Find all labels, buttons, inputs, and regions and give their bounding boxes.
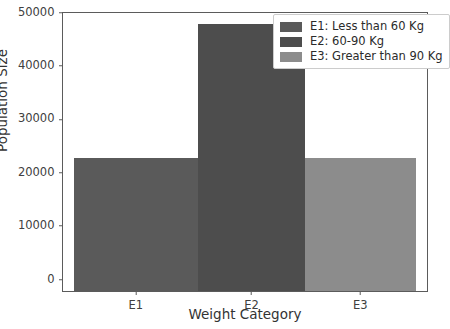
legend-swatch-icon: [280, 52, 302, 62]
y-tick-label: 10000: [18, 220, 59, 232]
y-tick-mark: [59, 279, 63, 280]
legend-swatch-icon: [280, 37, 302, 47]
y-tick-mark: [59, 119, 63, 120]
y-tick-label: 20000: [18, 167, 59, 179]
x-tick-label: E1: [129, 300, 144, 312]
x-tick-e3: E3: [353, 291, 368, 311]
x-tick-e2: E2: [244, 291, 259, 311]
bar-e1: [74, 158, 198, 291]
legend-label: E1: Less than 60 Kg: [310, 21, 424, 33]
y-tick-0: 0: [47, 274, 63, 286]
y-tick-label: 0: [47, 274, 59, 286]
legend-item-e3[interactable]: E3: Greater than 90 Kg: [280, 49, 443, 64]
y-tick-label: 30000: [18, 114, 59, 126]
y-tick-mark: [59, 226, 63, 227]
y-tick-mark: [59, 172, 63, 173]
y-tick-mark: [59, 65, 63, 66]
y-axis-title: Population Size: [0, 49, 10, 152]
x-tick-label: E3: [353, 300, 368, 312]
legend-item-e1[interactable]: E1: Less than 60 Kg: [280, 19, 443, 34]
legend-label: E3: Greater than 90 Kg: [310, 51, 443, 63]
y-tick-20000: 20000: [18, 167, 63, 179]
legend-label: E2: 60-90 Kg: [310, 36, 384, 48]
y-tick-label: 40000: [18, 60, 59, 72]
x-tick-e1: E1: [129, 291, 144, 311]
legend-swatch-icon: [280, 22, 302, 32]
y-tick-mark: [59, 12, 63, 13]
legend[interactable]: E1: Less than 60 KgE2: 60-90 KgE3: Great…: [273, 14, 450, 69]
y-tick-50000: 50000: [18, 7, 63, 19]
bar-e3: [305, 158, 416, 291]
legend-item-e2[interactable]: E2: 60-90 Kg: [280, 34, 443, 49]
y-tick-10000: 10000: [18, 220, 63, 232]
y-tick-40000: 40000: [18, 60, 63, 72]
x-tick-mark: [135, 291, 136, 295]
x-tick-mark: [360, 291, 361, 295]
x-tick-label: E2: [244, 300, 259, 312]
y-tick-30000: 30000: [18, 114, 63, 126]
x-tick-mark: [251, 291, 252, 295]
y-tick-label: 50000: [18, 7, 59, 19]
